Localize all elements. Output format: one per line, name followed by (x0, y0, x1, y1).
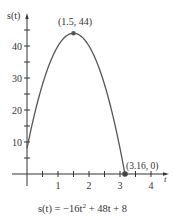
chart: 10 20 30 40 1 2 3 4 s(t) t (1.5, 44) (3.… (0, 0, 174, 216)
y-axis-arrow-icon (25, 13, 28, 19)
caption: s(t) = −16t2 + 48t + 8 (38, 202, 127, 215)
y-tick-label-40: 40 (12, 41, 22, 52)
y-axis-label: s(t) (7, 10, 20, 22)
x-tick-label-3: 3 (118, 180, 123, 191)
peak-label: (1.5, 44) (58, 16, 92, 28)
x-tick-label-4: 4 (149, 180, 154, 191)
caption-rhs: + 48t + 8 (86, 203, 127, 214)
parabola-curve (27, 33, 125, 174)
x-tick-label-2: 2 (87, 180, 92, 191)
peak-point (71, 31, 76, 36)
x-axis-label: t (164, 174, 167, 184)
y-tick-label-10: 10 (12, 137, 22, 148)
caption-lhs: s(t) = −16t (38, 203, 83, 215)
x-tick-label-1: 1 (56, 180, 61, 191)
y-tick-label-30: 30 (12, 73, 22, 84)
root-label: (3.16, 0) (126, 161, 158, 172)
root-point (122, 171, 128, 177)
y-tick-label-20: 20 (12, 105, 22, 116)
